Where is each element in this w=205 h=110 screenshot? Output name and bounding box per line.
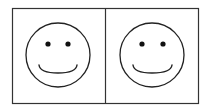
- right-eye: [65, 41, 70, 46]
- left-eye: [45, 41, 50, 46]
- smiley-diagram: [0, 0, 205, 110]
- right-eye: [160, 41, 165, 46]
- left-eye: [139, 41, 144, 46]
